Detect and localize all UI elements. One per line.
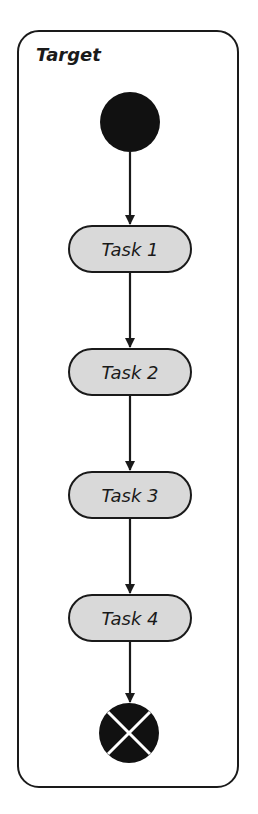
flow-connectors: [0, 0, 258, 814]
task-label: Task 2: [101, 362, 158, 383]
task-node-3: Task 3: [68, 471, 192, 519]
start-node-icon: [100, 92, 160, 152]
task-node-4: Task 4: [68, 594, 192, 642]
task-node-2: Task 2: [68, 348, 192, 396]
end-node-icon: [99, 703, 159, 763]
task-label: Task 1: [101, 239, 158, 260]
task-label: Task 4: [101, 608, 158, 629]
task-label: Task 3: [101, 485, 158, 506]
task-node-1: Task 1: [68, 225, 192, 273]
